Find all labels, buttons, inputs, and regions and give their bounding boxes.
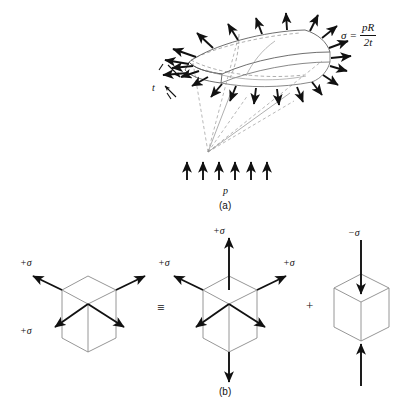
thickness-label: t [152,83,155,93]
cube-arrows-1 [33,276,145,327]
cube-arrows-2 [174,238,286,382]
caption-a: (a) [219,200,231,211]
part-a-shell-element [159,13,351,180]
compression-cube-graphic [334,240,389,386]
cube-edges-1 [62,276,116,352]
formula-equals: = [349,29,356,41]
caption-b: (b) [219,386,231,397]
membrane-stress-formula: σ = pR 2t [341,22,376,48]
biaxial-cube-graphic [33,276,145,352]
shell-outer-surface [189,30,330,74]
pressure-label: p [223,186,228,196]
compression-cube-label-top: −σ [348,228,360,238]
triaxial-cube-label-upper-left: +σ [158,258,170,268]
equivalence-symbol: ≡ [157,300,164,316]
triaxial-cube-label-upper-right: +σ [283,258,295,268]
biaxial-cube-label-lower-left: +σ [20,326,32,336]
formula-fraction: pR 2t [360,22,376,48]
formula-numerator: pR [360,22,376,34]
plus-symbol: + [306,298,313,314]
figure-root: σ = pR 2t t p (a) +σ +σ ≡ +σ +σ +σ + −σ … [0,0,414,413]
triaxial-cube-label-top: +σ [213,226,225,236]
biaxial-cube-label-upper-left: +σ [20,258,32,268]
figure-vector-layer [0,0,414,413]
cube-edges-2 [203,276,257,352]
thickness-dimension [159,64,180,99]
formula-denominator: 2t [362,37,375,49]
pressure-arrows [187,162,267,180]
triaxial-cube-graphic [174,238,286,382]
formula-lhs: σ [341,29,346,41]
